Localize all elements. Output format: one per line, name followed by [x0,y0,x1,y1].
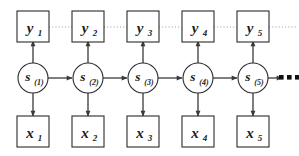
state-label-s5: s [244,69,250,84]
observation-node-y2: y 2 [72,11,104,42]
input-node-x1: x 1 [17,116,49,147]
observation-node-y3: y 3 [127,11,159,42]
input-subscript-x5: 5 [258,133,263,143]
state-node-s5: s (5) [238,63,268,93]
state-node-s4: s (4) [183,63,213,93]
input-label-x3: x [135,125,144,141]
input-label-x5: x [245,125,254,141]
observation-label-y5: y [245,20,254,36]
observation-label-y4: y [190,20,199,36]
observation-node-y4: y 4 [182,11,214,42]
observation-subscript-y2: 2 [92,28,98,38]
observation-label-y1: y [25,20,34,36]
ellipsis-dot-2 [287,75,292,80]
state-node-s2: s (2) [73,63,103,93]
input-subscript-x3: 3 [147,133,153,143]
state-subscript-s3: (3) [144,78,154,87]
state-subscript-s4: (4) [199,78,209,87]
emission-arrows-up [33,41,253,63]
observation-subscript-y5: 5 [258,28,263,38]
state-label-s1: s [24,69,30,84]
observation-subscript-y1: 1 [38,28,43,38]
observation-label-y2: y [80,20,89,36]
observation-label-y3: y [135,20,144,36]
continuation-ellipsis [279,75,299,80]
observation-node-y1: y 1 [17,11,49,42]
state-subscript-s5: (5) [254,78,264,87]
ellipsis-dot-1 [279,75,284,80]
input-node-x5: x 5 [237,116,269,147]
state-subscript-s2: (2) [89,78,99,87]
graphical-model-diagram: y 1 y 2 y 3 y 4 y 5 s (1) [0,0,299,156]
input-label-x2: x [80,125,89,141]
diagram-canvas: y 1 y 2 y 3 y 4 y 5 s (1) [0,0,299,156]
input-subscript-x1: 1 [38,133,43,143]
state-label-s3: s [134,69,140,84]
state-subscript-s1: (1) [34,78,44,87]
ellipsis-dot-3 [295,75,299,80]
observation-node-y5: y 5 [237,11,269,42]
input-arrows-down [33,93,253,116]
input-subscript-x4: 4 [202,133,208,143]
observation-subscript-y4: 4 [202,28,208,38]
input-node-x2: x 2 [72,116,104,147]
state-node-s3: s (3) [128,63,158,93]
input-node-x4: x 4 [182,116,214,147]
input-subscript-x2: 2 [92,133,98,143]
state-label-s2: s [79,69,85,84]
input-label-x1: x [25,125,34,141]
input-node-x3: x 3 [127,116,159,147]
input-label-x4: x [190,125,199,141]
state-label-s4: s [189,69,195,84]
observation-subscript-y3: 3 [147,28,153,38]
state-node-s1: s (1) [18,63,48,93]
